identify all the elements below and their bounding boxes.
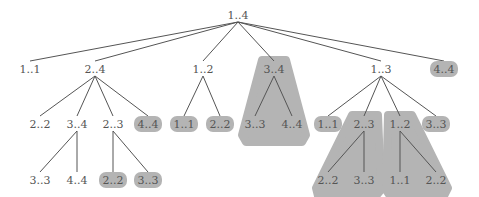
node-label: 2..4: [85, 63, 106, 76]
node-label: 1..1: [390, 174, 411, 187]
tree-edge: [95, 22, 238, 61]
node-label: 2..3: [103, 118, 124, 131]
node-label: 2..2: [30, 118, 51, 131]
tree-edge: [238, 22, 381, 61]
tree-edge: [113, 131, 148, 172]
node-label: 1..4: [228, 9, 249, 22]
tree-node: 3..3: [30, 174, 51, 187]
node-label: 3..4: [264, 63, 285, 76]
node-label: 1..1: [174, 118, 195, 131]
tree-canvas: 1..41..12..41..23..41..34..42..23..42..3…: [0, 0, 479, 197]
tree-node: 3..3: [245, 118, 266, 131]
tree-node: 2..2: [318, 174, 339, 187]
tree-edge: [381, 76, 436, 116]
tree-node: 3..4: [264, 63, 285, 76]
node-label: 3..3: [426, 118, 447, 131]
tree-node: 4..4: [430, 61, 458, 77]
tree-node: 1..2: [193, 63, 214, 76]
node-label: 3..3: [354, 174, 375, 187]
node-label: 4..4: [282, 118, 303, 131]
tree-node: 1..3: [371, 63, 392, 76]
node-label: 2..2: [103, 174, 124, 187]
tree-node: 2..3: [354, 118, 375, 131]
tree-edge: [203, 76, 220, 116]
node-label: 2..2: [426, 174, 447, 187]
node-label: 1..2: [390, 118, 411, 131]
node-label: 1..2: [193, 63, 214, 76]
tree-node: 1..1: [390, 174, 411, 187]
tree-edge: [30, 22, 238, 61]
tree-node: 4..4: [134, 116, 162, 132]
tree-diagram: 1..41..12..41..23..41..34..42..23..42..3…: [0, 0, 479, 197]
tree-node: 2..4: [85, 63, 106, 76]
node-label: 3..4: [67, 118, 88, 131]
tree-node: 4..4: [282, 118, 303, 131]
node-label: 1..1: [318, 118, 339, 131]
tree-edge: [328, 76, 381, 116]
tree-node: 4..4: [67, 174, 88, 187]
tree-node: 1..1: [314, 116, 342, 132]
tree-node: 2..2: [30, 118, 51, 131]
tree-edge: [381, 76, 400, 116]
tree-node: 1..1: [20, 63, 41, 76]
tree-edge: [40, 131, 77, 172]
tree-node: 1..1: [170, 116, 198, 132]
node-label: 3..3: [138, 174, 159, 187]
tree-edge: [40, 76, 95, 116]
node-label: 3..3: [245, 118, 266, 131]
tree-edge: [95, 76, 148, 116]
node-label: 2..2: [318, 174, 339, 187]
node-label: 1..1: [20, 63, 41, 76]
node-label: 4..4: [67, 174, 88, 187]
tree-node: 2..2: [99, 172, 127, 188]
node-label: 2..3: [354, 118, 375, 131]
node-label: 4..4: [434, 63, 455, 76]
tree-node: 1..4: [228, 9, 249, 22]
tree-node: 3..3: [134, 172, 162, 188]
tree-node: 2..3: [103, 118, 124, 131]
tree-edge: [184, 76, 203, 116]
tree-node: 2..2: [426, 174, 447, 187]
tree-node: 1..2: [390, 118, 411, 131]
node-label: 4..4: [138, 118, 159, 131]
tree-node: 3..4: [67, 118, 88, 131]
node-label: 2..2: [210, 118, 231, 131]
tree-node: 3..3: [422, 116, 450, 132]
tree-node: 2..2: [206, 116, 234, 132]
highlight-regions: [242, 60, 448, 196]
node-label: 3..3: [30, 174, 51, 187]
tree-edge: [95, 76, 113, 116]
node-label: 1..3: [371, 63, 392, 76]
tree-node: 3..3: [354, 174, 375, 187]
